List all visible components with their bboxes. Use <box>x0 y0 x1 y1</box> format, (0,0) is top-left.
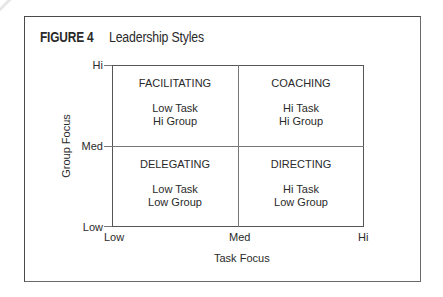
grid-horizontal-divider <box>104 146 364 147</box>
quadrant-coaching: COACHING Hi Task Hi Group <box>238 77 364 128</box>
y-axis-title: Group Focus <box>60 114 72 178</box>
y-tick-low-mark <box>104 226 112 227</box>
quadrant-name: FACILITATING <box>112 77 238 90</box>
quadrant-task-level: Low Task <box>112 183 238 196</box>
quadrant-task-level: Low Task <box>112 102 238 115</box>
figure-name: Leadership Styles <box>109 29 204 45</box>
quadrant-name: COACHING <box>238 77 364 90</box>
y-tick-low: Low <box>63 221 103 233</box>
quadrant-group-level: Hi Group <box>238 115 364 128</box>
watermark-stroke <box>0 0 23 17</box>
x-tick-hi: Hi <box>358 231 368 243</box>
x-axis-title: Task Focus <box>214 252 270 264</box>
figure-title: FIGURE 4 Leadership Styles <box>40 29 217 45</box>
quadrant-task-level: Hi Task <box>238 102 364 115</box>
quadrant-name: DIRECTING <box>238 158 364 171</box>
figure-label: FIGURE 4 <box>40 29 94 45</box>
quadrant-delegating: DELEGATING Low Task Low Group <box>112 158 238 209</box>
quadrant-task-level: Hi Task <box>238 183 364 196</box>
quadrant-facilitating: FACILITATING Low Task Hi Group <box>112 77 238 128</box>
quadrant-name: DELEGATING <box>112 158 238 171</box>
quadrant-group-level: Hi Group <box>112 115 238 128</box>
y-tick-hi: Hi <box>63 59 103 71</box>
x-tick-low: Low <box>104 231 124 243</box>
x-tick-med: Med <box>229 231 250 243</box>
quadrant-group-level: Low Group <box>112 196 238 209</box>
quadrant-directing: DIRECTING Hi Task Low Group <box>238 158 364 209</box>
quadrant-group-level: Low Group <box>238 196 364 209</box>
y-tick-hi-mark <box>104 65 112 66</box>
